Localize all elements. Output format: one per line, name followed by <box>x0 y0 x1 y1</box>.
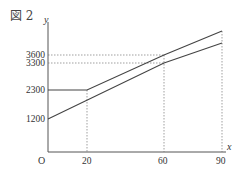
x-tick-90: 90 <box>216 156 226 166</box>
origin-label: O <box>38 155 45 166</box>
y-tick-2300: 2300 <box>26 85 45 95</box>
y-axis-label: y <box>43 14 49 25</box>
y-tick-1200: 1200 <box>26 114 45 124</box>
x-tick-20: 20 <box>82 156 92 166</box>
x-tick-60: 60 <box>158 156 168 166</box>
guide-lines <box>48 31 222 152</box>
x-axis-label: x <box>226 141 232 152</box>
y-tick-3300: 3300 <box>26 58 45 68</box>
series-line-a <box>48 31 222 90</box>
series-line-b <box>48 43 222 119</box>
line-chart: y x O 20 60 90 3600 3300 2300 1200 <box>0 0 243 173</box>
